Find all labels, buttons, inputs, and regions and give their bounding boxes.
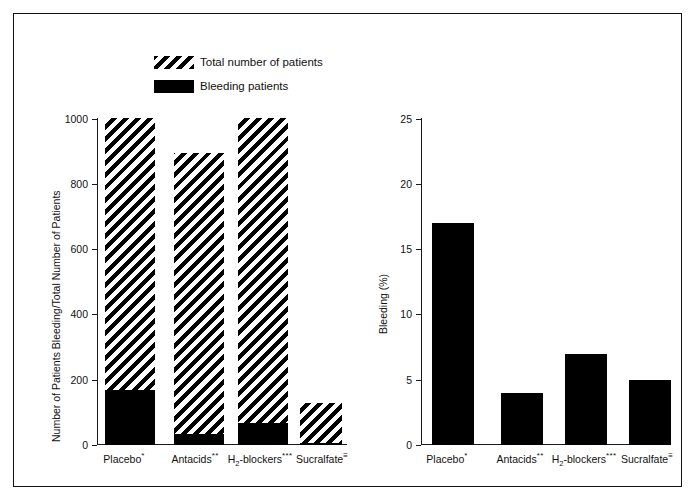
left-ytick-200 <box>92 380 97 381</box>
right-ytick-label-5: 5 <box>384 374 412 386</box>
left-ytick-label-800: 800 <box>52 178 88 190</box>
right-ytick-label-15: 15 <box>384 243 412 255</box>
left-ytick-label-200: 200 <box>52 374 88 386</box>
left-ytick-label-600: 600 <box>52 243 88 255</box>
right-bar-sucralfate <box>629 380 671 445</box>
left-bar-bleeding-antacids <box>174 434 224 445</box>
right-chart-panel: Bleeding (%) 25 20 15 10 5 0 Placebo* An… <box>354 14 683 488</box>
right-bar-h2blockers <box>565 354 607 445</box>
right-plot-area <box>424 119 671 445</box>
left-ytick-400 <box>92 314 97 315</box>
left-ytick-1000 <box>92 119 97 120</box>
right-ytick-0 <box>416 445 421 446</box>
right-y-axis-title: Bleeding (%) <box>377 274 389 334</box>
right-ytick-10 <box>416 314 421 315</box>
right-ytick-25 <box>416 119 421 120</box>
right-bar-antacids <box>501 393 543 445</box>
left-ytick-label-1000: 1000 <box>52 113 88 125</box>
left-bar-bleeding-placebo <box>105 390 155 445</box>
left-ytick-label-400: 400 <box>52 308 88 320</box>
left-ytick-800 <box>92 184 97 185</box>
left-ytick-label-0: 0 <box>52 439 88 451</box>
right-y-axis-line <box>421 118 422 445</box>
right-bar-placebo <box>432 223 474 445</box>
left-bar-bleeding-sucralfate <box>300 443 342 445</box>
left-y-axis-line <box>97 118 98 445</box>
right-ytick-label-0: 0 <box>384 439 412 451</box>
right-ytick-20 <box>416 184 421 185</box>
left-bar-bleeding-h2blockers <box>238 423 288 445</box>
left-bar-total-h2blockers <box>238 118 288 445</box>
right-xlabel-sucralfate: Sucralfate≡ <box>597 451 694 465</box>
left-bar-total-antacids <box>174 153 224 445</box>
right-ytick-label-20: 20 <box>384 178 412 190</box>
right-ytick-label-25: 25 <box>384 113 412 125</box>
right-ytick-15 <box>416 249 421 250</box>
left-ytick-0 <box>92 445 97 446</box>
left-ytick-600 <box>92 249 97 250</box>
left-plot-area <box>100 119 347 445</box>
figure-frame: Total number of patients Bleeding patien… <box>13 13 682 487</box>
right-ytick-label-10: 10 <box>384 308 412 320</box>
right-ytick-5 <box>416 380 421 381</box>
left-bar-total-sucralfate <box>300 403 342 445</box>
left-chart-panel: Number of Patients Bleeding/Total Number… <box>14 14 354 488</box>
